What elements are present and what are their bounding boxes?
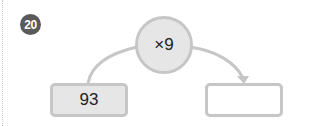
operation-label: ×9 (154, 35, 173, 55)
operation-circle: ×9 (135, 16, 193, 74)
input-to-operation-arc (88, 47, 137, 83)
input-value: 93 (80, 90, 99, 110)
operation-to-output-arc (189, 47, 243, 78)
input-box: 93 (50, 83, 128, 117)
answer-box[interactable] (205, 83, 283, 117)
